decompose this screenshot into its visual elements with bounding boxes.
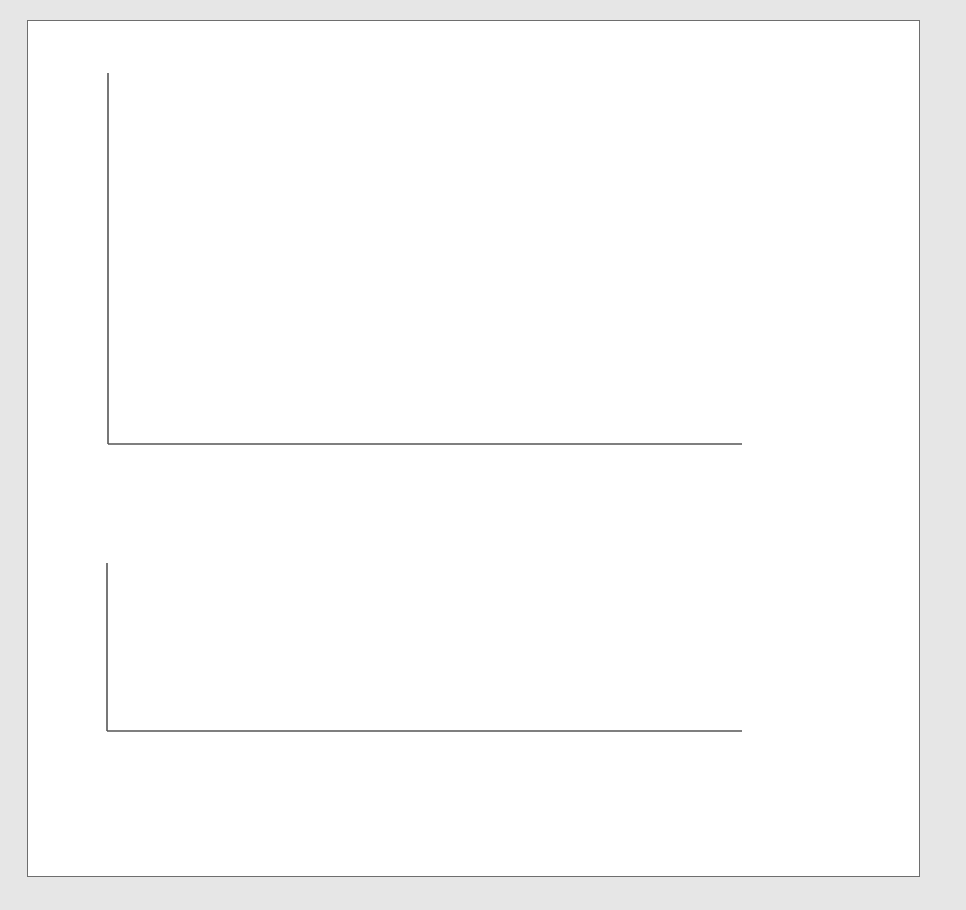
bottom-panel [0, 0, 742, 731]
chart-canvas [0, 0, 966, 910]
top-panel [0, 0, 742, 444]
